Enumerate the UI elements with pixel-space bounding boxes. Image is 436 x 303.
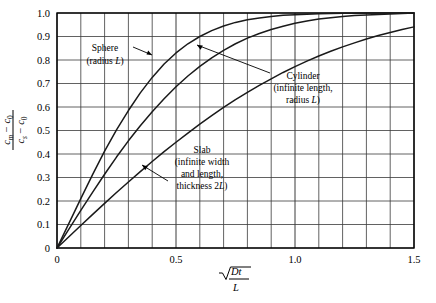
chart-svg: 00.51.01.5 00.10.20.30.40.50.60.70.80.91… [0,0,436,303]
x-axis-denominator: L [232,282,239,293]
y-tick-label: 0.5 [37,125,50,136]
y-tick-label: 1.0 [37,8,50,19]
y-tick-label: 0.9 [37,31,50,42]
y-tick-label: 0.4 [37,149,51,160]
annotation-cylinder-line3: radius L) [286,95,320,106]
diffusion-chart-figure: 00.51.01.5 00.10.20.30.40.50.60.70.80.91… [0,0,436,303]
annotation-sphere-line1: Sphere [92,43,118,53]
y-tick-label: 0.1 [37,219,50,230]
y-tick-label: 0.3 [37,172,50,183]
annotation-cylinder-line1: Cylinder [286,71,320,81]
annotation-slab-line1: Slab [194,145,211,155]
x-tick-label: 0 [54,254,59,265]
x-tick-label: 0.5 [169,254,182,265]
x-tick-label: 1.5 [407,254,420,265]
y-tick-label: 0.6 [37,102,50,113]
chart-background [0,0,436,303]
annotation-slab-line3: and length, [181,169,223,179]
annotation-slab-line2: (infinite width [175,157,230,168]
y-tick-label: 0.8 [37,55,50,66]
y-tick-label: 0 [45,243,50,254]
annotation-slab-line4: thickness 2L) [177,181,228,192]
annotation-sphere-line2: (radius L) [86,56,123,67]
y-tick-label: 0.7 [37,78,50,89]
x-tick-label: 1.0 [288,254,301,265]
x-axis-numerator: Dt [230,266,243,277]
annotation-cylinder-line2: (infinite length, [273,83,332,94]
y-tick-label: 0.2 [37,196,50,207]
